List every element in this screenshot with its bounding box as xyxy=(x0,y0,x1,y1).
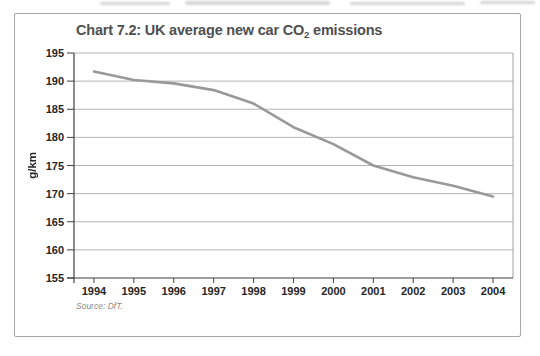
y-tick-label: 185 xyxy=(46,103,64,115)
x-tick-label: 2000 xyxy=(321,285,345,297)
x-tick-label: 1998 xyxy=(241,285,265,297)
y-tick-label: 195 xyxy=(46,47,64,59)
x-tick-label: 2004 xyxy=(481,285,506,297)
chart-card: Chart 7.2: UK average new car CO2 emissi… xyxy=(14,13,521,337)
scan-artifact xyxy=(185,1,330,5)
scan-artifact xyxy=(100,2,170,5)
x-tick-label: 2002 xyxy=(401,285,425,297)
x-tick-label: 1999 xyxy=(281,285,305,297)
y-tick-label: 170 xyxy=(46,188,64,200)
y-tick-label: 165 xyxy=(46,216,64,228)
page: Chart 7.2: UK average new car CO2 emissi… xyxy=(0,0,540,356)
scan-artifact xyxy=(480,1,535,4)
x-tick-label: 1994 xyxy=(82,285,107,297)
x-tick-label: 1997 xyxy=(201,285,225,297)
y-tick-label: 155 xyxy=(46,272,64,284)
y-tick-label: 175 xyxy=(46,160,64,172)
source-note: Source: DfT. xyxy=(76,301,123,311)
x-tick-label: 1996 xyxy=(162,285,186,297)
y-tick-label: 160 xyxy=(46,244,64,256)
scan-artifact xyxy=(0,0,540,8)
y-tick-label: 180 xyxy=(46,131,64,143)
line-chart-plot: 1551601651701751801851901951994199519961… xyxy=(15,14,522,338)
scan-artifact xyxy=(350,2,465,5)
x-tick-label: 2003 xyxy=(441,285,465,297)
x-tick-label: 1995 xyxy=(122,285,146,297)
y-tick-label: 190 xyxy=(46,75,64,87)
data-line xyxy=(94,72,493,197)
x-tick-label: 2001 xyxy=(361,285,385,297)
